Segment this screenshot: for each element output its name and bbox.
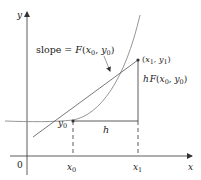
point-x0-y0 (71, 119, 74, 122)
point-x1-y1 (136, 58, 139, 61)
slope-label: slope = F(x0, y0) (36, 44, 114, 57)
y0-label: y0 (57, 118, 67, 130)
solution-curve (5, 15, 140, 122)
tangent-line (33, 60, 138, 137)
x1-tick-label: x1 (133, 162, 142, 174)
point-x1-y1-label: (x1, y1) (142, 55, 171, 66)
euler-method-diagram: y x 0 x0 x1 slope = F(x0, y0) (x1, y1) h… (0, 0, 201, 180)
step-h-label: h (103, 124, 109, 135)
origin-label: 0 (17, 160, 23, 170)
x-axis-label: x (188, 162, 193, 172)
rise-label: hF(x0, y0) (143, 74, 187, 86)
x0-tick-label: x0 (67, 162, 76, 174)
slope-leader-arrow (104, 56, 110, 71)
y-axis-label: y (16, 10, 23, 20)
